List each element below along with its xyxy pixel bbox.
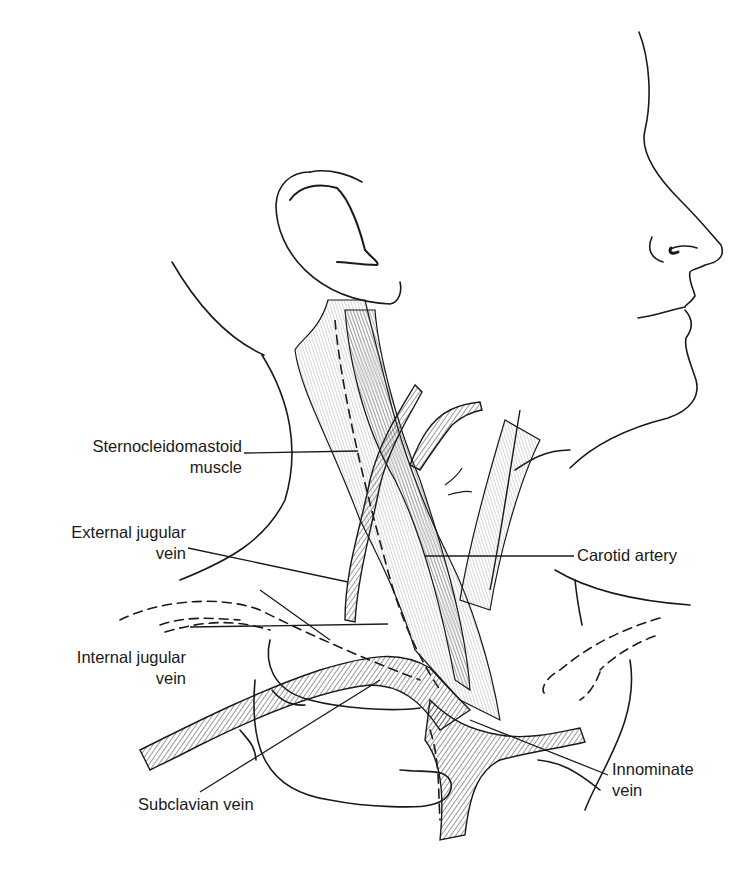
right-clavicle-dashed <box>543 618 660 694</box>
label-carotid-artery: Carotid artery <box>577 545 677 566</box>
nostril <box>650 237 697 262</box>
label-line: Sternocleidomastoid <box>0 436 242 457</box>
label-sternocleidomastoid-muscle: Sternocleidomastoid muscle <box>0 436 242 478</box>
back-of-neck <box>172 262 292 580</box>
label-line: External jugular <box>0 522 186 543</box>
label-internal-jugular-vein: Internal jugular vein <box>0 647 186 689</box>
label-line: vein <box>0 668 186 689</box>
facial-vein-branch <box>410 402 482 470</box>
label-line: vein <box>612 780 694 801</box>
leader-external-jugular <box>188 548 348 582</box>
ear-top <box>310 171 362 182</box>
innominate-vein <box>425 700 585 840</box>
ear-outer <box>276 172 401 304</box>
label-line: muscle <box>0 457 242 478</box>
label-line: Innominate <box>612 759 694 780</box>
clavicle-dashed-lower <box>165 623 270 632</box>
face-profile <box>570 32 722 468</box>
leader-internal-jugular <box>190 624 388 627</box>
subclavian-vein <box>140 656 470 770</box>
anatomy-figure: Sternocleidomastoid muscle External jugu… <box>0 0 749 875</box>
label-line: Internal jugular <box>0 647 186 668</box>
label-line: Subclavian vein <box>138 794 254 815</box>
ear-inner <box>290 186 378 265</box>
label-external-jugular-vein: External jugular vein <box>0 522 186 564</box>
label-innominate-vein: Innominate vein <box>612 759 694 801</box>
strap-muscles <box>460 420 540 610</box>
label-subclavian-vein: Subclavian vein <box>138 794 254 815</box>
label-line: vein <box>0 543 186 564</box>
label-line: Carotid artery <box>577 545 677 566</box>
